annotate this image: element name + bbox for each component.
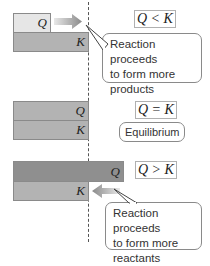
callout-pointer-top bbox=[86, 25, 108, 50]
callout-pointer-bottom bbox=[114, 189, 137, 203]
arrow-right-icon bbox=[54, 14, 82, 29]
